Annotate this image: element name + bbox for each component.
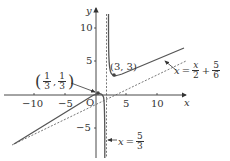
- y-tick-label-5: 5: [86, 56, 92, 66]
- label-point-3-3: (3, 3): [110, 62, 137, 72]
- x-axis-label: x: [184, 98, 190, 108]
- x-tick-label-10: 10: [151, 99, 164, 109]
- label-oblique-asymptote: x = x 2 + 5 6: [174, 61, 220, 80]
- x-tick-label-neg10: −10: [22, 99, 43, 109]
- pointer-arrow-one-third: [71, 83, 95, 92]
- x-tick-label-neg5: −5: [58, 99, 73, 109]
- origin-label: O: [86, 98, 94, 108]
- y-axis-label: y: [86, 6, 92, 16]
- point-one-third: [96, 91, 100, 95]
- y-tick-label-neg5: −5: [76, 123, 91, 133]
- point-3-3: [112, 73, 116, 77]
- label-vertical-asymptote: x = 5 3: [118, 132, 144, 151]
- y-tick-label-10: 10: [80, 23, 93, 33]
- x-tick-label-5: 5: [123, 99, 129, 109]
- label-point-one-third: ( 1 3 , 1 3 ): [35, 72, 74, 91]
